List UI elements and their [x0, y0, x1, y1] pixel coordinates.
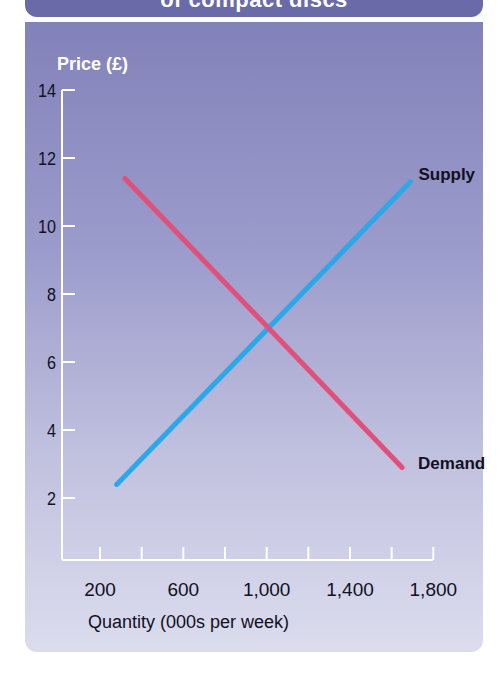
y-tick-label: 2 — [47, 488, 56, 510]
y-tick-label: 8 — [47, 284, 56, 306]
axes — [62, 90, 433, 560]
x-tick-label: 1,400 — [326, 579, 374, 600]
y-tick-label: 12 — [38, 148, 56, 170]
supply-demand-chart: 24681012142006001,0001,4001,800Price (£)… — [0, 0, 503, 675]
supply-line — [117, 182, 411, 485]
x-tick-label: 200 — [84, 579, 116, 600]
y-axis-title: Price (£) — [57, 54, 128, 74]
x-tick-label: 1,800 — [410, 579, 458, 600]
supply-label: Supply — [418, 165, 475, 184]
chart-labels: 24681012142006001,0001,4001,800Price (£)… — [38, 54, 485, 632]
x-tick-label: 1,000 — [243, 579, 291, 600]
y-tick-label: 10 — [38, 216, 56, 238]
y-tick-label: 14 — [38, 80, 56, 102]
series-lines — [117, 178, 411, 484]
demand-line — [125, 178, 402, 467]
demand-label: Demand — [418, 454, 485, 473]
y-tick-label: 4 — [47, 420, 56, 442]
x-axis-title: Quantity (000s per week) — [88, 612, 289, 632]
y-tick-label: 6 — [47, 352, 56, 374]
x-tick-label: 600 — [167, 579, 199, 600]
